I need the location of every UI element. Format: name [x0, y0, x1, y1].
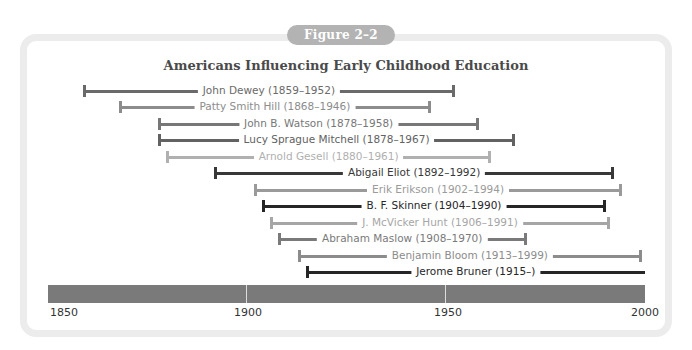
timeline-row: Abigail Eliot (1892–1992)	[215, 166, 613, 180]
person-label: Patty Smith Hill (1868–1946)	[194, 99, 355, 114]
axis-divider-1900	[246, 285, 247, 303]
person-label: Abigail Eliot (1892–1992)	[343, 165, 485, 180]
person-label: John Dewey (1859–1952)	[198, 83, 340, 98]
tick-label-1950: 1950	[434, 306, 462, 319]
lifespan-end-cap	[488, 151, 491, 163]
lifespan-start-cap	[119, 101, 122, 113]
lifespan-start-cap	[158, 118, 161, 130]
lifespan-start-cap	[214, 167, 217, 179]
lifespan-start-cap	[83, 85, 86, 97]
person-label: J. McVicker Hunt (1906–1991)	[357, 215, 523, 230]
axis-divider-1950	[445, 285, 446, 303]
lifespan-end-cap	[607, 217, 610, 229]
timeline-axis-bar	[48, 285, 645, 303]
timeline-row: Patty Smith Hill (1868–1946)	[120, 100, 430, 114]
timeline-row: Abraham Maslow (1908–1970)	[279, 232, 526, 246]
lifespan-start-cap	[278, 233, 281, 245]
person-label: Benjamin Bloom (1913–1999)	[387, 248, 553, 263]
person-label: Arnold Gesell (1880–1961)	[254, 149, 404, 164]
lifespan-end-cap	[524, 233, 527, 245]
person-label: Abraham Maslow (1908–1970)	[317, 231, 487, 246]
lifespan-start-cap	[166, 151, 169, 163]
tick-label-1900: 1900	[234, 306, 262, 319]
chart-title: Americans Influencing Early Childhood Ed…	[0, 58, 692, 73]
timeline-row: Arnold Gesell (1880–1961)	[167, 150, 489, 164]
tick-label-1850: 1850	[50, 306, 78, 319]
lifespan-start-cap	[270, 217, 273, 229]
lifespan-end-cap	[639, 250, 642, 262]
person-label: Lucy Sprague Mitchell (1878–1967)	[239, 132, 435, 147]
lifespan-end-cap	[611, 167, 614, 179]
lifespan-end-cap	[452, 85, 455, 97]
person-label: B. F. Skinner (1904–1990)	[362, 198, 507, 213]
lifespan-end-cap	[512, 134, 515, 146]
lifespan-end-cap	[476, 118, 479, 130]
tick-label-2000: 2000	[631, 306, 659, 319]
lifespan-start-cap	[262, 200, 265, 212]
timeline-row: John Dewey (1859–1952)	[84, 84, 454, 98]
lifespan-end-cap	[428, 101, 431, 113]
timeline-row: John B. Watson (1878–1958)	[159, 117, 477, 131]
lifespan-start-cap	[158, 134, 161, 146]
timeline-row: J. McVicker Hunt (1906–1991)	[271, 216, 609, 230]
timeline-row: Benjamin Bloom (1913–1999)	[299, 249, 641, 263]
timeline-row: Lucy Sprague Mitchell (1878–1967)	[159, 133, 513, 147]
lifespan-start-cap	[306, 266, 309, 278]
timeline-row: Erik Erikson (1902–1994)	[255, 183, 621, 197]
timeline-row: Jerome Bruner (1915–)	[307, 265, 645, 279]
figure-number-badge: Figure 2–2	[287, 25, 395, 45]
timeline-row: B. F. Skinner (1904–1990)	[263, 199, 605, 213]
lifespan-end-cap	[619, 184, 622, 196]
lifespan-end-cap	[603, 200, 606, 212]
person-label: Jerome Bruner (1915–)	[411, 264, 540, 279]
person-label: Erik Erikson (1902–1994)	[367, 182, 509, 197]
person-label: John B. Watson (1878–1958)	[239, 116, 398, 131]
lifespan-start-cap	[254, 184, 257, 196]
lifespan-start-cap	[298, 250, 301, 262]
